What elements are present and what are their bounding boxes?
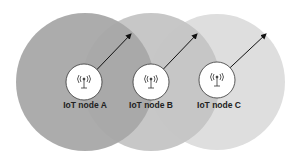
coverage-diagram: [0, 0, 298, 161]
node-label-c: IoT node C: [197, 100, 241, 110]
node-label-b: IoT node B: [129, 100, 173, 110]
node-label-a: IoT node A: [63, 100, 107, 110]
